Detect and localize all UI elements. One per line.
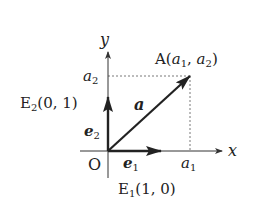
tick-a2-label: a2 <box>83 67 98 86</box>
vector-diagram: y x O a2 a1 A(a1, a2) a e2 e1 E2(0, 1) E… <box>0 0 263 216</box>
x-axis-label: x <box>228 141 237 160</box>
point-e2-label: E2(0, 1) <box>20 94 78 113</box>
y-axis-label: y <box>99 30 110 49</box>
point-a-label: A(a1, a2) <box>154 50 218 69</box>
tick-a1-label: a1 <box>181 154 196 173</box>
origin-label: O <box>88 155 101 174</box>
vector-e1-label: e1 <box>123 154 139 173</box>
vector-a-arrow <box>108 76 190 151</box>
vector-a-label: a <box>134 95 144 114</box>
point-e1-label: E1(1, 0) <box>118 180 176 199</box>
vector-e2-label: e2 <box>84 122 100 141</box>
